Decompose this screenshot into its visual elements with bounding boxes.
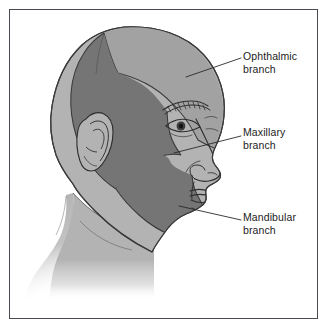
callout-label-ophthalmic: Ophthalmic branch — [243, 50, 297, 75]
figure-root: Ophthalmic branch Maxillary branch Mandi… — [0, 0, 329, 330]
callout-label-mandibular: Mandibular branch — [243, 211, 296, 236]
callout-label-maxillary: Maxillary branch — [243, 126, 285, 151]
